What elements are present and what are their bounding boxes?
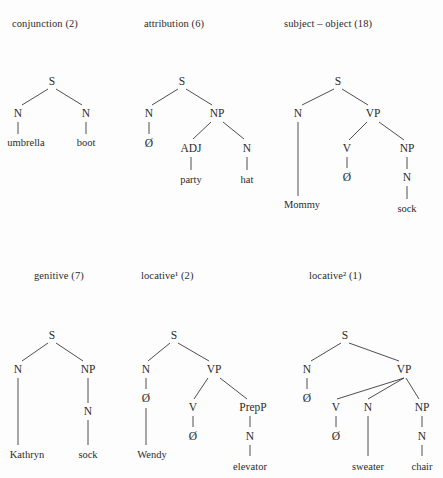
edge-t2-NP-ADJ (193, 122, 211, 139)
tree-attribution: S N Ø NP ADJ N party hat (145, 75, 254, 185)
node-t6-N: N (303, 363, 312, 375)
edge-t5-S-N (148, 343, 170, 361)
syntax-tree-canvas: S N N umbrella boot S N Ø NP ADJ N party (0, 0, 443, 478)
edge-t5-S-VP (178, 343, 209, 361)
node-t2-null: Ø (145, 137, 153, 149)
node-t5-V: V (189, 401, 198, 413)
leaf-t4-sock: sock (78, 449, 98, 460)
node-t6-S: S (342, 329, 348, 341)
edge-t3-S-N (302, 89, 334, 105)
node-t3-VP: VP (366, 107, 381, 119)
edge-t6-S-VP (349, 343, 399, 361)
node-t3-NP: NP (400, 142, 415, 154)
leaf-t6-sweater: sweater (352, 461, 385, 472)
node-t3-V: V (343, 142, 352, 154)
edge-t2-S-NP (186, 89, 212, 105)
node-t6-N3: N (418, 430, 427, 442)
leaf-t2-hat: hat (241, 174, 254, 185)
node-t6-NP: NP (415, 401, 430, 413)
node-t4-N: N (14, 363, 23, 375)
node-t6-N2: N (364, 401, 373, 413)
edge-t5-VP-PrepP (220, 378, 247, 399)
node-t3-N2: N (403, 171, 412, 183)
node-t2-NP: NP (210, 107, 225, 119)
node-t5-null: Ø (142, 392, 150, 404)
node-t5-N2: N (246, 430, 255, 442)
node-t4-S: S (49, 329, 55, 341)
tree-locative-2: S N Ø VP V Ø N sweater NP N chair (303, 329, 433, 472)
edge-t2-S-N (152, 89, 178, 105)
node-t4-NP: NP (81, 363, 96, 375)
edge-t1-S-Nleft (22, 89, 48, 105)
node-t2-N: N (145, 107, 154, 119)
leaf-t5-wendy: Wendy (137, 449, 167, 460)
edge-t6-VP-V (337, 378, 404, 399)
node-t1-N-left: N (14, 107, 23, 119)
node-t2-N2: N (243, 142, 252, 154)
tree-conjunction: S N N umbrella boot (7, 75, 95, 148)
edge-t6-VP-NP (406, 378, 419, 399)
leaf-t1-boot: boot (77, 137, 96, 148)
node-t2-ADJ: ADJ (180, 142, 202, 154)
edge-t2-NP-N (223, 122, 244, 139)
node-t3-null: Ø (343, 171, 351, 183)
edge-t6-VP-N2 (368, 378, 404, 399)
node-t5-S: S (171, 329, 177, 341)
leaf-t4-kathryn: Kathryn (10, 449, 45, 460)
leaf-t3-mommy: Mommy (284, 199, 321, 210)
node-t6-VP: VP (397, 363, 412, 375)
edge-t5-VP-V (194, 378, 208, 399)
leaf-t3-sock: sock (397, 203, 417, 214)
edge-t3-VP-NP (379, 122, 404, 140)
edge-t6-S-N (311, 343, 341, 361)
edge-t1-S-Nright (56, 89, 82, 105)
edge-t4-S-N (22, 343, 48, 361)
node-t5-PrepP: PrepP (239, 401, 266, 414)
node-t5-VP: VP (207, 363, 222, 375)
edge-t3-S-VP (342, 89, 368, 105)
leaf-t6-chair: chair (412, 461, 433, 472)
node-t3-S: S (335, 75, 341, 87)
node-t6-null: Ø (303, 392, 311, 404)
node-t3-N: N (294, 107, 303, 119)
edge-t3-VP-V (349, 122, 367, 140)
leaf-t5-elevator: elevator (233, 461, 267, 472)
leaf-t2-party: party (180, 174, 202, 185)
edge-t4-S-NP (56, 343, 83, 361)
tree-genitive: S N Kathryn NP N sock (10, 329, 99, 460)
node-t4-N2: N (84, 405, 93, 417)
node-t5-N: N (142, 363, 151, 375)
node-t2-S: S (179, 75, 185, 87)
node-t1-N-right: N (82, 107, 91, 119)
figure-page: conjunction (2) attribution (6) subject … (0, 0, 443, 478)
tree-locative-1: S N Ø Wendy VP V Ø PrepP N elevator (137, 329, 267, 472)
node-t1-S: S (49, 75, 55, 87)
leaf-t1-umbrella: umbrella (7, 137, 45, 148)
node-t5-vnull: Ø (189, 430, 197, 442)
tree-subject-object: S N Mommy VP V Ø NP N sock (284, 75, 417, 214)
node-t6-vnull: Ø (332, 430, 340, 442)
node-t6-V: V (332, 401, 341, 413)
